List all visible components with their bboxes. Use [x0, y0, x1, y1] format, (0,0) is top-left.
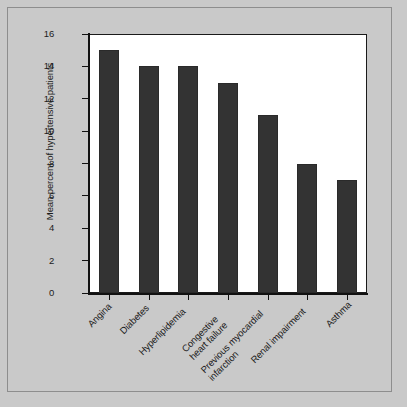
y-axis-tick — [82, 98, 89, 99]
y-axis-tick — [82, 195, 89, 196]
x-axis-tick — [109, 295, 110, 300]
x-axis-tick-label: Congestiveheart failure — [180, 312, 229, 361]
y-axis-tick — [82, 34, 89, 35]
bar — [99, 50, 119, 293]
y-axis-tick-label: 10 — [14, 126, 54, 136]
x-axis-tick-label: Hyperlipidemia — [137, 307, 188, 358]
x-axis-tick — [307, 295, 308, 300]
y-axis-tick-label: 8 — [14, 159, 54, 169]
y-axis-tick-label: 16 — [14, 29, 54, 39]
y-axis-tick-label: 14 — [14, 61, 54, 71]
x-axis-tick — [188, 295, 189, 300]
y-axis-tick-label: 12 — [14, 94, 54, 104]
bar — [337, 180, 357, 293]
y-axis-tick — [82, 228, 89, 229]
y-axis-tick-label: 4 — [14, 223, 54, 233]
y-axis-tick-label: 0 — [14, 288, 54, 298]
x-axis-tick-label: Renal impairment — [249, 306, 308, 365]
y-axis-tick-label: 6 — [14, 191, 54, 201]
x-axis-tick — [228, 295, 229, 300]
figure-plate: Mean percent of hypertensive patients 02… — [7, 7, 392, 392]
x-axis-tick — [268, 295, 269, 300]
x-axis-tick — [149, 295, 150, 300]
bar — [258, 115, 278, 293]
y-axis-tick — [82, 293, 89, 294]
y-axis-tick — [82, 260, 89, 261]
x-axis-tick-label: Asthma — [324, 300, 354, 330]
x-axis-tick-label: Previous myocardialinfarction — [199, 309, 273, 383]
bar — [297, 164, 317, 294]
bar — [218, 83, 238, 293]
y-axis-tick-label: 2 — [14, 256, 54, 266]
bar — [178, 66, 198, 293]
bar-series — [90, 35, 366, 293]
y-axis-tick — [82, 163, 89, 164]
y-axis-tick — [82, 131, 89, 132]
bar — [139, 66, 159, 293]
x-axis-tick-label: Diabetes — [118, 303, 151, 336]
x-axis-tick — [347, 295, 348, 300]
x-axis-tick-label: Angina — [86, 302, 114, 330]
y-axis-tick — [82, 66, 89, 67]
